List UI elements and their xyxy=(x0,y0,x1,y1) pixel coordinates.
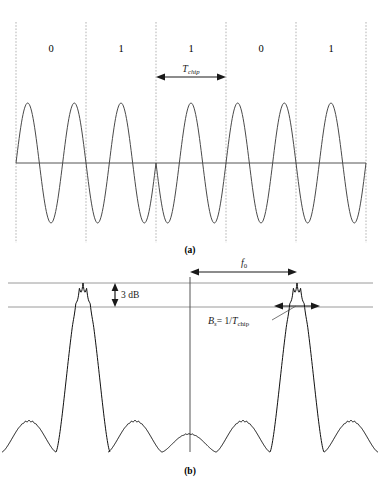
spread-spectrum-figure: 0 1 1 0 1 Tchip (a) f0 xyxy=(0,0,381,484)
bs-equals: = 1/ xyxy=(217,316,232,326)
bit-label-1: 1 xyxy=(118,43,123,54)
panel-a-caption: (a) xyxy=(184,245,195,256)
panel-b-caption: (b) xyxy=(184,466,196,477)
bs-denominator-subscript: chip xyxy=(237,320,249,327)
tchip-subscript: chip xyxy=(188,68,200,75)
bit-label-3: 0 xyxy=(258,43,263,54)
bit-label-2: 1 xyxy=(188,43,193,54)
three-db-label: 3 dB xyxy=(121,290,139,300)
f0-subscript: 0 xyxy=(244,262,248,269)
bit-label-0: 0 xyxy=(48,43,53,54)
bit-label-4: 1 xyxy=(328,43,333,54)
